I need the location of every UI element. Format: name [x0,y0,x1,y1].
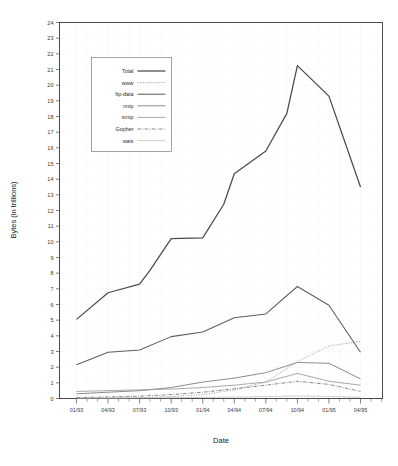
chart-legend: Totalwwwftp-datanntpsmtpGopherwais [92,58,172,152]
y-tick-label: 24 [47,20,53,26]
y-tick-label: 15 [47,161,53,167]
y-tick-label: 12 [47,208,53,214]
y-tick-label: 11 [48,223,54,229]
x-tick-label: 01/94 [196,407,210,413]
x-tick-label: 10/94 [291,407,305,413]
y-tick-label: 22 [47,51,53,57]
legend-label-ftp-data: ftp-data [115,91,133,97]
y-tick-label: 0 [50,396,53,402]
x-tick-label: 04/94 [228,407,242,413]
y-tick-label: 10 [47,239,53,245]
y-tick-label: 17 [47,129,53,135]
y-tick-label: 19 [47,98,53,104]
y-tick-label: 8 [50,270,53,276]
y-axis-label: Bytes (in trillions) [9,181,18,239]
x-tick-label: 04/95 [354,407,368,413]
legend-label-wais: wais [122,138,134,144]
x-tick-label: 01/93 [70,407,84,413]
y-tick-label: 5 [50,317,53,323]
y-tick-label: 20 [47,82,53,88]
y-tick-label: 14 [47,176,53,182]
legend-label-www: www [121,80,134,86]
y-tick-label: 4 [50,333,53,339]
chart-container: 0123456789101112131415161718192021222324… [0,0,398,466]
x-tick-label: 07/93 [133,407,147,413]
series-line-ftp-data [77,286,361,364]
line-chart: 0123456789101112131415161718192021222324… [0,0,398,466]
y-tick-label: 21 [47,67,53,73]
series-line-www [77,341,361,398]
y-tick-label: 2 [50,364,53,370]
y-tick-label: 23 [47,35,53,41]
y-tick-label: 9 [50,255,53,261]
y-tick-label: 13 [47,192,53,198]
y-tick-label: 16 [47,145,53,151]
x-tick-label: 04/93 [101,407,115,413]
y-tick-label: 18 [47,114,53,120]
x-tick-label: 01/95 [322,407,336,413]
series-line-smtp [77,373,361,391]
y-tick-label: 3 [50,349,53,355]
y-tick-label: 1 [50,380,53,386]
y-tick-label: 7 [50,286,53,292]
x-axis-label: Date [213,436,229,445]
x-tick-label: 07/94 [259,407,273,413]
legend-label-gopher: Gopher [116,126,134,132]
legend-label-total: Total [122,68,133,74]
series-line-gopher [77,381,361,397]
legend-label-nntp: nntp [123,103,134,109]
x-axis-ticks: 01/9304/9307/9310/9301/9404/9407/9410/94… [70,399,382,413]
x-tick-label: 10/93 [164,407,178,413]
y-axis-ticks: 0123456789101112131415161718192021222324 [47,20,59,402]
y-tick-label: 6 [50,302,53,308]
legend-label-smtp: smtp [122,114,134,120]
